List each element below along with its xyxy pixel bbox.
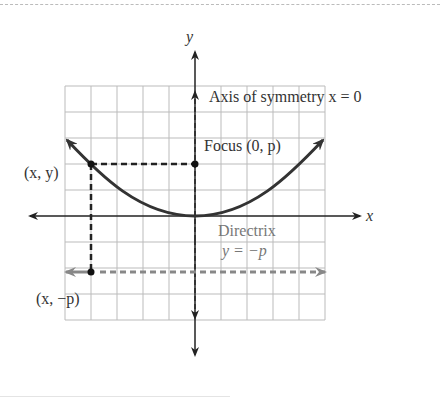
point-label: (x, y): [24, 164, 59, 182]
focus-label: Focus (0, p): [204, 137, 281, 155]
parabola-curve: [67, 140, 195, 216]
parabola-diagram: [0, 0, 440, 399]
point-xy: [88, 161, 95, 168]
projected-point: [88, 269, 95, 276]
axis-of-symmetry-label: Axis of symmetry x = 0: [209, 88, 362, 106]
directrix-equation: y = −p: [222, 242, 267, 260]
directrix-title: Directrix: [218, 222, 276, 240]
x-axis-label: x: [366, 207, 373, 225]
y-axis-label: y: [186, 28, 193, 46]
projected-point-label: (x, −p): [36, 290, 80, 308]
focus-point: [192, 161, 199, 168]
